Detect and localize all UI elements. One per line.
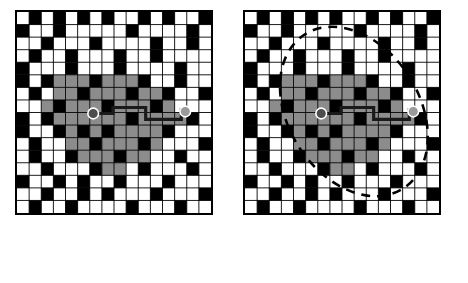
grid-cell [53,125,65,138]
grid-cell [342,138,354,151]
grid-cell [41,188,53,201]
grid-cell [126,125,138,138]
grid-cell [330,163,342,176]
grid-cell [342,163,354,176]
grid-cell [187,163,199,176]
grid-cell [175,200,187,213]
grid-cell [294,113,306,126]
grid-cell [294,125,306,138]
grid-cell [78,188,90,201]
grid-cell [294,50,306,63]
grid-cell [306,87,318,100]
grid-svg-right [245,12,439,213]
grid-cell [29,138,41,151]
grid-cell [318,138,330,151]
grid-cell [257,138,269,151]
grid-cell [114,175,126,188]
grid-cell [90,125,102,138]
grid-cell [114,62,126,75]
grid-cell [354,87,366,100]
grid-cell [257,200,269,213]
grid-cell [66,87,78,100]
grid-cell [294,62,306,75]
grid-cell [102,188,114,201]
grid-cell [66,75,78,88]
grid-cell [78,12,90,25]
grid-cell [306,125,318,138]
grid-cell [245,62,257,75]
grid-cell [138,75,150,88]
grid-cell [427,12,439,25]
grid-cell [330,188,342,201]
grid-cell [66,138,78,151]
grid-cell [366,150,378,163]
grid-cell [29,12,41,25]
grid-cell [90,150,102,163]
grid-cell [114,163,126,176]
grid-cell [245,113,257,126]
grid-cell [366,125,378,138]
grid-cell [187,25,199,38]
grid-cell [318,125,330,138]
grid-cell [403,150,415,163]
grid-cell [281,12,293,25]
grid-cell [126,138,138,151]
grid-cell [378,188,390,201]
grid-cell [269,113,281,126]
grid-cell [281,75,293,88]
grid-cell [257,50,269,63]
grid-cell [126,150,138,163]
grid-cell [150,125,162,138]
grid-cell [114,87,126,100]
grid-cell [269,188,281,201]
grid-cell [378,87,390,100]
grid-cell [29,50,41,63]
grid-cell [102,87,114,100]
grid-cell [199,12,211,25]
grid-cell [245,175,257,188]
grid-svg-left [17,12,211,213]
grid-cell [415,25,427,38]
grid-cell [138,87,150,100]
grid-cell [187,37,199,50]
grid-cell [245,125,257,138]
grid-cell [318,75,330,88]
grid-cell [90,37,102,50]
grid-cell [318,37,330,50]
grid-cell [41,37,53,50]
grid-cell [150,87,162,100]
grid-cell [17,125,29,138]
grid-cell [378,125,390,138]
grid-canvas-right [245,12,439,213]
grid-cell [138,138,150,151]
grid-cell [102,125,114,138]
grid-cell [163,175,175,188]
grid-cell [138,12,150,25]
grid-cell [175,62,187,75]
grid-cell [342,50,354,63]
grid-cell [53,100,65,113]
grid-cell [257,150,269,163]
grid-cell [163,125,175,138]
grid-cell [78,75,90,88]
grid-cell [138,163,150,176]
grid-cell [78,138,90,151]
grid-cell [53,175,65,188]
grid-cell [163,87,175,100]
grid-cell [90,75,102,88]
grid-cell [138,125,150,138]
grid-cell [281,87,293,100]
grid-cell [66,113,78,126]
grid-cell [66,150,78,163]
grid-cell [427,87,439,100]
grid-cell [102,150,114,163]
grid-cell [78,87,90,100]
grid-cell [53,25,65,38]
grid-cell [281,25,293,38]
grid-cell [306,188,318,201]
grid-cell [318,163,330,176]
grid-cell [150,188,162,201]
grid-cell [126,87,138,100]
grid-cell [150,138,162,151]
grid-cell [330,138,342,151]
